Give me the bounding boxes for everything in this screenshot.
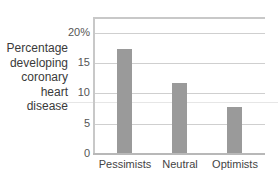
y-tick-5: 5 [58, 117, 90, 129]
bar-optimists [227, 107, 242, 154]
y-tick-0: 0 [58, 147, 90, 159]
y-axis-label-line: Percentage [0, 41, 68, 56]
bar-pessimists [117, 49, 132, 154]
y-tick-10: 10 [58, 86, 90, 98]
plot-frame-top [93, 17, 265, 19]
y-tick-20: 20% [58, 26, 90, 38]
gridline-20 [95, 33, 265, 34]
x-tick-neutral: Neutral [150, 158, 210, 170]
x-tick-optimists: Optimists [205, 158, 265, 170]
x-axis-line [93, 153, 265, 155]
y-axis-label-line: coronary [0, 70, 68, 85]
x-tick-pessimists: Pessimists [95, 158, 155, 170]
y-axis-line [93, 17, 95, 155]
y-axis-label: Percentage developing coronary heart dis… [0, 41, 68, 114]
bar-neutral [172, 83, 187, 154]
y-tick-15: 15 [58, 56, 90, 68]
